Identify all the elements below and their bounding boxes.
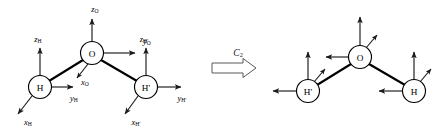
block-arrow-right <box>212 59 256 78</box>
vector-h-diagonal <box>420 69 431 82</box>
bond-o-h <box>49 60 83 81</box>
atom-label-o-rotated: O <box>357 53 364 63</box>
axis-label-y-hprime: yH' <box>177 94 187 104</box>
axis-label-x-o: xO <box>80 78 89 88</box>
right-molecule-group: O H' H <box>273 17 431 103</box>
atom-label-hprime: H' <box>142 83 151 93</box>
operation-group: C2 <box>212 47 256 78</box>
operation-label: C2 <box>233 47 243 58</box>
axis-arrow-x-o <box>77 64 88 78</box>
bond-o-hprime <box>101 60 137 81</box>
figure-canvas: O H H' zO yO xO zH yH xH zH <box>0 0 442 132</box>
axis-arrow-x-h <box>18 96 32 114</box>
axis-label-z-o: zO <box>90 5 98 15</box>
atom-label-h: H <box>37 83 44 93</box>
bond-o-h-rotated <box>369 64 405 85</box>
atom-label-hprime-rotated: H' <box>304 87 313 97</box>
axis-label-y-h: yH <box>69 94 78 104</box>
axis-label-z-h: zH <box>33 35 41 45</box>
atom-label-h-rotated: H <box>411 87 418 97</box>
vector-o-diagonal <box>366 35 377 48</box>
atom-label-o: O <box>89 49 96 59</box>
axis-arrow-x-hprime <box>125 96 138 114</box>
axis-label-x-hprime: xH' <box>131 118 141 128</box>
bond-o-hprime-rotated <box>317 64 351 85</box>
axis-label-x-h: xH <box>23 118 32 128</box>
chemistry-figure: O H H' zO yO xO zH yH xH zH <box>0 0 442 132</box>
left-molecule-group: O H H' zO yO xO zH yH xH zH <box>18 5 186 128</box>
